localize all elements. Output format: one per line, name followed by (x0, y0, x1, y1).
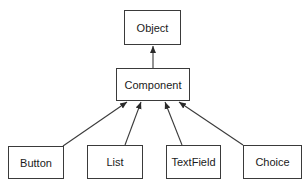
node-component: Component (116, 68, 190, 101)
edge-list-component (125, 102, 141, 145)
node-object: Object (124, 10, 181, 45)
edge-choice-component (179, 102, 243, 145)
node-choice: Choice (243, 145, 302, 179)
node-object-label: Object (137, 22, 169, 34)
node-component-label: Component (125, 79, 182, 91)
node-textfield: TextField (166, 145, 221, 179)
node-button-label: Button (20, 157, 52, 169)
node-button: Button (8, 146, 64, 179)
node-list: List (87, 145, 143, 179)
edge-textfield-component (165, 102, 182, 145)
node-textfield-label: TextField (171, 156, 215, 168)
node-choice-label: Choice (255, 156, 289, 168)
node-list-label: List (106, 156, 123, 168)
edge-button-component (63, 102, 127, 146)
